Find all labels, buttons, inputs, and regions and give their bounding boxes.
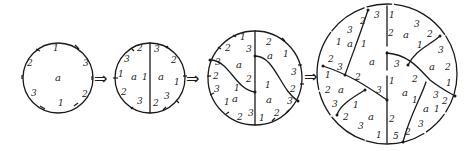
stage-3-right-curve bbox=[255, 56, 298, 101]
s3-label: 2 bbox=[224, 43, 231, 53]
stage-4-disc: 3 2 3 1 2 3 1 1 3 2 1 3 2 2 1 3 2 1 2 2 … bbox=[317, 4, 457, 144]
s2-right-label: 1 bbox=[174, 77, 180, 87]
s4-face: a bbox=[429, 61, 435, 72]
s4-label: 2 bbox=[327, 54, 334, 64]
s4-label: 3 bbox=[433, 90, 439, 100]
arrow-2: ⇒ bbox=[186, 69, 199, 88]
s2-right-label: 3 bbox=[154, 44, 160, 54]
s4-label: 3 bbox=[332, 99, 338, 109]
s4-face: a bbox=[423, 103, 429, 114]
s1-label: 1 bbox=[53, 43, 59, 53]
stage-3-disc: 1 2 3 3 2 3 1 1 2 3 2 1 2 1 3 2 1 3 2 a … bbox=[207, 31, 304, 125]
s3-label: 2 bbox=[245, 74, 252, 84]
s2-right-label: 2 bbox=[170, 55, 177, 65]
s3-label: 2 bbox=[273, 108, 280, 118]
diagram-canvas: 1 3 2 1 3 2 a ⇒ 2 3 1 2 3 3 2 1 3 2 1 a … bbox=[0, 0, 476, 151]
s4-label: 1 bbox=[336, 37, 342, 47]
arrow-1: ⇒ bbox=[94, 69, 107, 88]
s4-label: 3 bbox=[414, 19, 420, 29]
s3-face: a bbox=[266, 94, 272, 105]
s4-label: 3 bbox=[418, 119, 424, 129]
s4-label: 2 bbox=[426, 29, 433, 39]
s4-face: a bbox=[347, 38, 353, 49]
s1-label: 3 bbox=[83, 58, 89, 68]
s4-label: 3 bbox=[438, 45, 444, 55]
s4-label: 2 bbox=[354, 72, 361, 82]
s3-label: 3 bbox=[291, 67, 297, 77]
s4-label: 2 bbox=[441, 96, 448, 106]
stage-2-disc: 2 3 1 2 3 3 2 1 3 2 1 a a bbox=[113, 43, 187, 113]
s4-label: 2 bbox=[359, 16, 366, 26]
s2-face-left: a bbox=[131, 71, 137, 82]
s4-face: a bbox=[369, 56, 375, 67]
s4-label: 1 bbox=[417, 40, 423, 50]
s3-label: 3 bbox=[287, 96, 293, 106]
s4-label: 2 bbox=[388, 114, 395, 124]
s4-label: 2 bbox=[411, 74, 418, 84]
s4-label: 1 bbox=[389, 10, 395, 20]
s2-face-right: a bbox=[158, 71, 164, 82]
s4-label: 3 bbox=[347, 25, 353, 35]
s3-label: 1 bbox=[240, 32, 246, 42]
s3-label: 3 bbox=[214, 84, 220, 94]
s4-label: 1 bbox=[389, 76, 395, 86]
s3-label: 1 bbox=[234, 83, 240, 93]
s4-label: 2 bbox=[387, 28, 394, 38]
s2-left-label: 3 bbox=[137, 96, 143, 106]
s4-label: 3 bbox=[376, 85, 382, 95]
s1-face: a bbox=[55, 72, 61, 83]
s4-label: 5 bbox=[393, 131, 399, 141]
s4-face: a bbox=[402, 87, 408, 98]
s1-label: 3 bbox=[31, 88, 37, 98]
s2-left-label: 3 bbox=[124, 54, 130, 64]
s3-face: a bbox=[267, 50, 273, 61]
s2-left-label: 2 bbox=[120, 87, 127, 97]
s4-label: 1 bbox=[376, 130, 382, 140]
s3-label: 1 bbox=[265, 80, 271, 90]
s4-face: a bbox=[403, 29, 409, 40]
s4-label: 2 bbox=[342, 112, 349, 122]
s4-label: 2 bbox=[444, 62, 451, 72]
s4-face: a bbox=[338, 84, 344, 95]
s4-label: 1 bbox=[325, 70, 331, 80]
s3-label: 2 bbox=[212, 71, 219, 81]
s4-label: 3 bbox=[358, 121, 364, 131]
s3-label: 2 bbox=[289, 84, 296, 94]
s3-label: 3 bbox=[246, 44, 252, 54]
s3-label: 1 bbox=[283, 49, 289, 59]
s4-label: 3 bbox=[394, 59, 400, 69]
s4-label: 1 bbox=[412, 95, 418, 105]
s2-left-label: 1 bbox=[118, 69, 124, 79]
s3-label: 2 bbox=[265, 37, 272, 47]
s4-label: 1 bbox=[434, 104, 440, 114]
s2-interior-label: 1 bbox=[142, 72, 148, 82]
s1-label: 1 bbox=[58, 98, 64, 108]
s4-label: 2 bbox=[324, 85, 331, 95]
s3-face: a bbox=[236, 59, 242, 70]
s3-label: 2 bbox=[236, 112, 243, 122]
s3-label: 1 bbox=[224, 97, 230, 107]
s2-right-label: 2 bbox=[152, 98, 159, 108]
stage-4-upper-right-curve bbox=[408, 36, 440, 65]
s1-label: 2 bbox=[26, 58, 33, 68]
stage-1-disc: 1 3 2 1 3 2 a bbox=[22, 43, 93, 113]
s4-face: a bbox=[368, 111, 374, 122]
s1-label: 2 bbox=[81, 89, 88, 99]
s4-label: 1 bbox=[446, 78, 452, 88]
s4-label: 3 bbox=[374, 10, 380, 20]
s4-label: 1 bbox=[361, 39, 367, 49]
s2-left-label: 2 bbox=[136, 43, 143, 53]
s4-label: 2 bbox=[404, 127, 411, 137]
s3-label: 3 bbox=[248, 108, 254, 118]
s3-label: 1 bbox=[259, 113, 265, 123]
s3-face: a bbox=[232, 93, 238, 104]
s4-label: 3 bbox=[337, 62, 343, 72]
s4-label: 1 bbox=[353, 100, 359, 110]
s3-label: 3 bbox=[215, 57, 221, 67]
s2-right-label: 3 bbox=[164, 91, 170, 101]
arrow-3: ⇒ bbox=[304, 67, 317, 86]
